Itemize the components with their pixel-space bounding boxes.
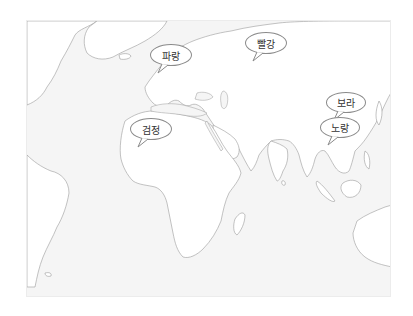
bubble-body: 파랑 bbox=[150, 44, 192, 66]
label-text-red: 빨강 bbox=[257, 36, 275, 51]
map-landmasses bbox=[27, 21, 391, 297]
borneo-land bbox=[341, 180, 361, 197]
bubble-tail bbox=[138, 138, 150, 148]
bubble-body: 보라 bbox=[326, 92, 366, 113]
world-map bbox=[26, 20, 391, 297]
caspian-sea bbox=[221, 91, 228, 109]
madagascar-land bbox=[234, 213, 245, 235]
label-text-purple: 보라 bbox=[337, 95, 355, 110]
label-text-blue: 파랑 bbox=[162, 48, 180, 63]
bubble-body: 빨강 bbox=[245, 32, 287, 54]
bubble-body: 검정 bbox=[130, 118, 172, 140]
label-text-black: 검정 bbox=[142, 122, 160, 137]
south-america-land bbox=[27, 155, 69, 287]
australia-land bbox=[353, 205, 391, 267]
sumatra-land bbox=[316, 181, 335, 202]
bubble-tail bbox=[158, 64, 170, 74]
falkland-islands bbox=[45, 273, 51, 277]
iceland-land bbox=[119, 54, 131, 60]
bubble-body: 노랑 bbox=[320, 117, 360, 138]
bubble-tail bbox=[328, 136, 340, 146]
sri-lanka-land bbox=[282, 181, 286, 186]
bubble-tail bbox=[253, 52, 265, 62]
india-land bbox=[268, 141, 288, 181]
label-text-yellow: 노랑 bbox=[331, 120, 349, 135]
philippines-land bbox=[364, 151, 370, 169]
